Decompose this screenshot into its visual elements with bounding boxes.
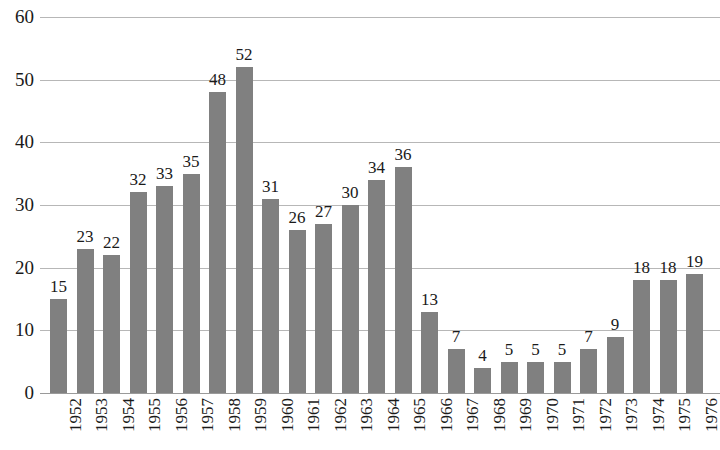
y-axis-tick-label: 50 <box>0 70 34 89</box>
y-axis-tick-label: 30 <box>0 195 34 214</box>
x-axis-tick-label: 1964 <box>385 398 402 432</box>
y-axis-tick-label: 20 <box>0 258 34 277</box>
x-axis-tick-label: 1963 <box>358 398 375 432</box>
x-axis-tick-label: 1962 <box>332 398 349 432</box>
x-axis-tick-label: 1958 <box>226 398 243 432</box>
x-axis-tick-label: 1961 <box>305 398 322 432</box>
x-axis-tick-label: 1953 <box>93 398 110 432</box>
x-axis-tick-label: 1967 <box>464 398 481 432</box>
x-axis-tick-label: 1975 <box>676 398 693 432</box>
x-axis-tick-label: 1971 <box>570 398 587 432</box>
x-axis-tick-label: 1969 <box>517 398 534 432</box>
y-axis-tick-label: 40 <box>0 132 34 151</box>
y-axis-tick-label: 10 <box>0 320 34 339</box>
x-axis-tick-label: 1972 <box>597 398 614 432</box>
x-axis-tick-label: 1952 <box>67 398 84 432</box>
x-axis-tick-label: 1970 <box>544 398 561 432</box>
x-axis-tick-label: 1959 <box>252 398 269 432</box>
x-axis-tick-label: 1957 <box>199 398 216 432</box>
bar-chart: 1523223233354852312627303436137455579181… <box>0 0 720 450</box>
x-axis-tick-label: 1954 <box>120 398 137 432</box>
x-axis-tick-label: 1955 <box>146 398 163 432</box>
x-axis-tick-label: 1973 <box>623 398 640 432</box>
y-axis-tick-label: 0 <box>0 383 34 402</box>
x-axis-tick-label: 1976 <box>703 398 720 432</box>
x-axis-tick-label: 1966 <box>438 398 455 432</box>
x-axis-tick-label: 1965 <box>411 398 428 432</box>
y-axis-tick-label: 60 <box>0 7 34 26</box>
x-axis-tick-label: 1968 <box>491 398 508 432</box>
x-axis-tick-label: 1960 <box>279 398 296 432</box>
x-axis-tick-label: 1974 <box>650 398 667 432</box>
x-axis-tick-label: 1956 <box>173 398 190 432</box>
x-axis: 1952195319541955195619571958195919601961… <box>40 0 720 450</box>
